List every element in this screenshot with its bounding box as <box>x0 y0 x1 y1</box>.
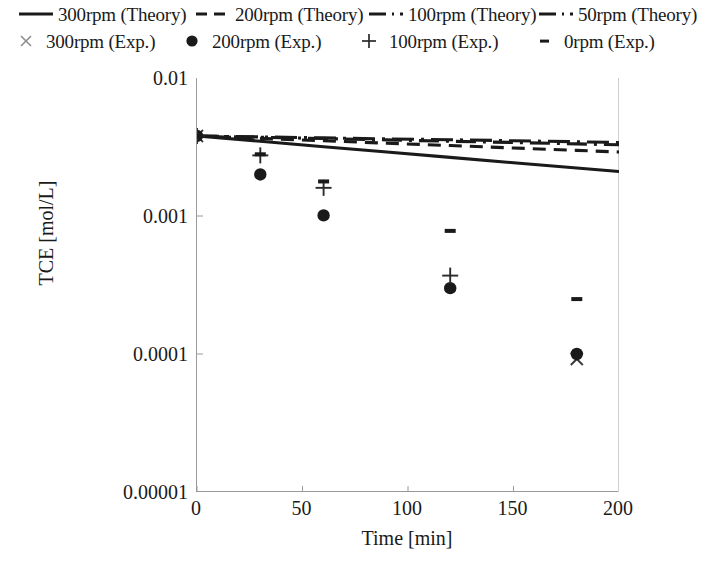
legend-label: 200rpm (Theory) <box>235 5 363 24</box>
line-style-long-dash-dot-icon <box>538 7 574 21</box>
data-point-marker <box>445 229 456 233</box>
data-point-marker <box>255 152 266 156</box>
legend-theory-200rpm: 200rpm (Theory) <box>195 1 363 27</box>
legend-exp-0rpm: 0rpm (Exp.) <box>530 28 655 54</box>
legend-label: 100rpm (Exp.) <box>389 32 498 51</box>
figure-container: 300rpm (Theory) 200rpm (Theory) 100rpm (… <box>0 0 710 562</box>
x-axis-title: Time [min] <box>196 527 618 549</box>
data-point-marker <box>444 282 456 294</box>
plot-area <box>196 78 618 492</box>
legend-label: 0rpm (Exp.) <box>564 32 655 51</box>
data-point-marker <box>254 168 266 180</box>
plus-icon <box>355 31 383 51</box>
legend-theory-100rpm: 100rpm (Theory) <box>368 1 536 27</box>
x-cross-icon <box>12 31 40 51</box>
data-point-marker <box>318 179 329 183</box>
data-point-marker <box>442 268 458 284</box>
y-axis-tick-labels: 0.01 0.001 0.0001 0.00001 <box>58 78 188 492</box>
line-style-dash-dot-icon <box>368 7 404 21</box>
data-point-marker <box>571 297 582 301</box>
chart-legend: 300rpm (Theory) 200rpm (Theory) 100rpm (… <box>0 0 710 56</box>
legend-exp-200rpm: 200rpm (Exp.) <box>178 28 321 54</box>
legend-exp-100rpm: 100rpm (Exp.) <box>355 28 498 54</box>
x-tick-label: 200 <box>578 498 658 518</box>
legend-label: 300rpm (Theory) <box>58 5 186 24</box>
filled-circle-icon <box>178 31 206 51</box>
x-tick-label: 150 <box>473 498 553 518</box>
legend-label: 100rpm (Theory) <box>408 5 536 24</box>
dash-icon <box>530 31 558 51</box>
plot-canvas <box>197 78 619 492</box>
legend-label: 200rpm (Exp.) <box>212 32 321 51</box>
data-point-marker <box>571 348 583 360</box>
legend-theory-50rpm: 50rpm (Theory) <box>538 1 697 27</box>
y-tick-label: 0.001 <box>68 206 188 226</box>
legend-row-theory: 300rpm (Theory) 200rpm (Theory) 100rpm (… <box>0 1 710 27</box>
legend-exp-300rpm: 300rpm (Exp.) <box>12 28 155 54</box>
x-tick-label: 0 <box>156 498 236 518</box>
legend-label: 50rpm (Theory) <box>578 5 697 24</box>
data-point-marker <box>197 134 203 138</box>
x-axis-tick-labels: 0 50 100 150 200 <box>196 498 656 524</box>
legend-row-experimental: 300rpm (Exp.) 200rpm (Exp.) 1 <box>0 28 710 54</box>
line-style-solid-icon <box>18 7 54 21</box>
x-tick-label: 50 <box>262 498 342 518</box>
legend-label: 300rpm (Exp.) <box>46 32 155 51</box>
y-tick-label: 0.0001 <box>68 344 188 364</box>
line-style-dashed-icon <box>195 7 231 21</box>
x-tick-label: 100 <box>367 498 447 518</box>
data-point-marker <box>317 209 329 221</box>
y-axis-title: TCE [mol/L] <box>35 143 57 323</box>
legend-theory-300rpm: 300rpm (Theory) <box>18 1 186 27</box>
y-tick-label: 0.01 <box>68 68 188 88</box>
